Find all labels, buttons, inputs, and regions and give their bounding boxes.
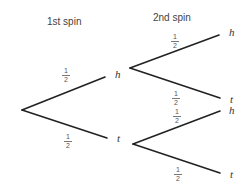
prob-th: 1 2 xyxy=(173,108,181,124)
prob-numerator: 1 xyxy=(174,166,182,173)
prob-numerator: 1 xyxy=(62,67,70,74)
outcome-hh: h xyxy=(229,26,235,38)
prob-hh: 1 2 xyxy=(171,33,179,49)
prob-numerator: 1 xyxy=(171,33,179,40)
prob-numerator: 1 xyxy=(64,133,72,140)
tree-branches xyxy=(0,0,247,186)
outcome-tt: t xyxy=(230,168,233,180)
prob-denominator: 2 xyxy=(173,117,181,124)
prob-tt: 1 2 xyxy=(174,166,182,182)
outcome-1-t: t xyxy=(117,132,120,144)
outcome-1-h: h xyxy=(115,68,121,80)
probability-tree-diagram: 1st spin 2nd spin h t 1 2 1 2 h t 1 2 1 … xyxy=(0,0,247,186)
header-second-spin: 2nd spin xyxy=(153,12,191,23)
prob-1-h: 1 2 xyxy=(62,67,70,83)
prob-denominator: 2 xyxy=(172,99,180,106)
outcome-th: h xyxy=(229,104,235,116)
prob-denominator: 2 xyxy=(171,42,179,49)
header-first-spin: 1st spin xyxy=(47,16,81,27)
prob-1-t: 1 2 xyxy=(64,133,72,149)
prob-numerator: 1 xyxy=(172,90,180,97)
prob-ht: 1 2 xyxy=(172,90,180,106)
prob-denominator: 2 xyxy=(62,76,70,83)
prob-numerator: 1 xyxy=(173,108,181,115)
prob-denominator: 2 xyxy=(64,142,72,149)
prob-denominator: 2 xyxy=(174,175,182,182)
